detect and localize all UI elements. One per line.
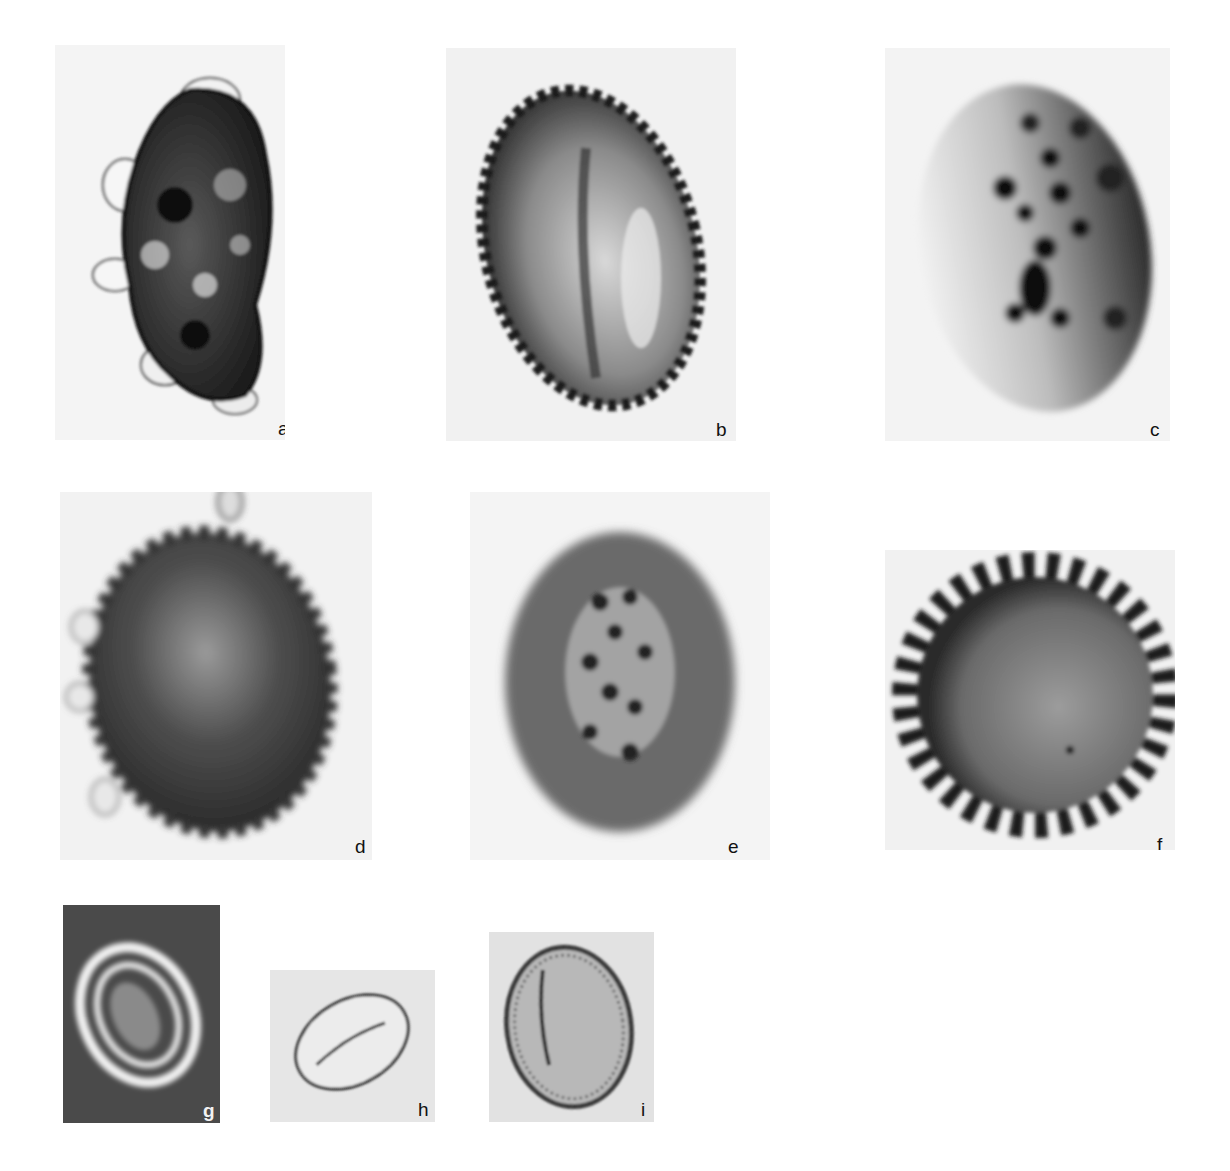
panel-label-i: i [641,1100,645,1119]
panel-g: g [63,905,220,1123]
pollen-grain-h-image [270,970,435,1122]
panel-label-a: a [278,419,285,438]
panel-b: b [446,48,736,441]
panel-a: a [55,45,285,440]
pollen-grain-i-image [489,932,654,1122]
pollen-grain-c-image [885,48,1170,441]
panel-i: i [489,932,654,1122]
panel-label-d: d [355,837,366,856]
panel-label-f: f [1157,835,1162,850]
panel-label-c: c [1150,420,1160,439]
panel-e: e [470,492,770,860]
panel-label-e: e [728,837,739,856]
panel-c: c [885,48,1170,441]
panel-label-b: b [716,420,727,439]
pollen-grain-g-image [63,905,220,1123]
pollen-grain-e-image [470,492,770,860]
panel-h: h [270,970,435,1122]
pollen-grain-f-image [885,550,1175,850]
panel-label-g: g [203,1101,215,1120]
pollen-grain-d-image [60,492,372,860]
panel-f: f [885,550,1175,850]
pollen-grain-a-image [55,45,285,440]
panel-d: d [60,492,372,860]
panel-label-h: h [418,1100,429,1119]
pollen-grain-b-image [446,48,736,441]
